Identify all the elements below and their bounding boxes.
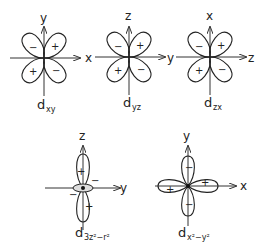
sign: + (77, 166, 85, 177)
v-axis-label: y (40, 11, 47, 25)
orbital-name: d (178, 225, 186, 240)
v-axis-label: z (79, 129, 85, 143)
sign: − (69, 189, 77, 200)
sign: + (85, 201, 93, 212)
sign: − (185, 162, 193, 173)
h-axis-label: y (120, 181, 127, 195)
orbital-name: d (204, 95, 212, 110)
orbital-name: d (37, 97, 45, 112)
sign: − (218, 64, 226, 75)
sign: − (114, 41, 122, 52)
v-axis-label: y (183, 129, 190, 143)
orbital-subscript: x²−y² (187, 233, 210, 242)
sign: + (195, 65, 203, 76)
orbital-name: d (75, 225, 83, 240)
d-orbitals-diagram: x y − + + − d xy y z − + + − d yz (0, 0, 266, 246)
h-axis-label: x (240, 179, 247, 193)
sign: − (52, 65, 60, 76)
sign: + (51, 41, 59, 52)
orbital-subscript: 3z²−r² (84, 233, 110, 242)
orbital-dxy: x y − + + − d xy (10, 11, 92, 114)
sign: − (137, 64, 145, 75)
sign: − (29, 42, 37, 53)
sign: − (91, 175, 99, 186)
orbital-dz2: y z + + − − d 3z²−r² (45, 129, 127, 242)
sign: − (195, 41, 203, 52)
orbital-subscript: yz (132, 103, 141, 112)
orbital-subscript: xy (46, 105, 56, 114)
orbital-dx2y2: x y − − + + d x²−y² (155, 129, 247, 242)
sign: + (217, 40, 225, 51)
h-axis-label: y (167, 51, 174, 65)
orbital-subscript: zx (213, 103, 222, 112)
orbital-name: d (123, 95, 131, 110)
v-axis-label: z (125, 9, 131, 23)
orbital-dyz: y z − + + − d yz (95, 9, 174, 112)
sign: + (29, 66, 37, 77)
v-axis-label: x (206, 9, 213, 23)
h-axis-label: z (248, 51, 254, 65)
orbital-dzx: z x − + + − d zx (176, 9, 254, 112)
sign: + (201, 177, 209, 188)
sign: + (114, 65, 122, 76)
sign: − (185, 199, 193, 210)
sign: + (166, 184, 174, 195)
h-axis-label: x (85, 51, 92, 65)
sign: + (136, 40, 144, 51)
